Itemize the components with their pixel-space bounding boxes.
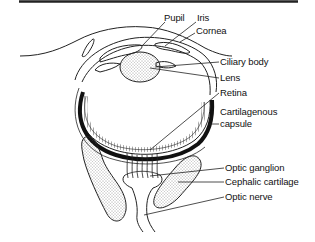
label-optic-nerve: Optic nerve bbox=[225, 192, 272, 202]
eye-drawing bbox=[0, 0, 315, 242]
label-capsule: capsule bbox=[220, 119, 252, 129]
label-ciliary-body: Ciliary body bbox=[220, 57, 268, 67]
label-pupil: Pupil bbox=[164, 13, 185, 23]
eye-diagram: Pupil Iris Cornea Ciliary body Lens Reti… bbox=[0, 0, 315, 242]
label-lens: Lens bbox=[220, 73, 240, 83]
lens-shape bbox=[120, 52, 160, 82]
label-iris: Iris bbox=[197, 13, 209, 23]
label-cartilagenous: Cartilagenous bbox=[220, 107, 277, 117]
label-cornea: Cornea bbox=[196, 26, 227, 36]
label-optic-ganglion: Optic ganglion bbox=[225, 163, 284, 173]
label-retina: Retina bbox=[220, 88, 247, 98]
label-cephalic-cartilage: Cephalic cartilage bbox=[225, 177, 299, 187]
